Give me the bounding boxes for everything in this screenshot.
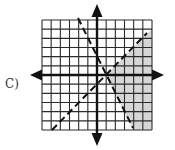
y-axis-up-arrow-icon <box>92 4 103 17</box>
coordinate-plane <box>0 0 175 150</box>
y-axis-down-arrow-icon <box>92 133 103 146</box>
shaded-region <box>106 29 152 130</box>
x-axis-left-arrow-icon <box>30 70 42 81</box>
x-axis-right-arrow-icon <box>152 70 164 81</box>
